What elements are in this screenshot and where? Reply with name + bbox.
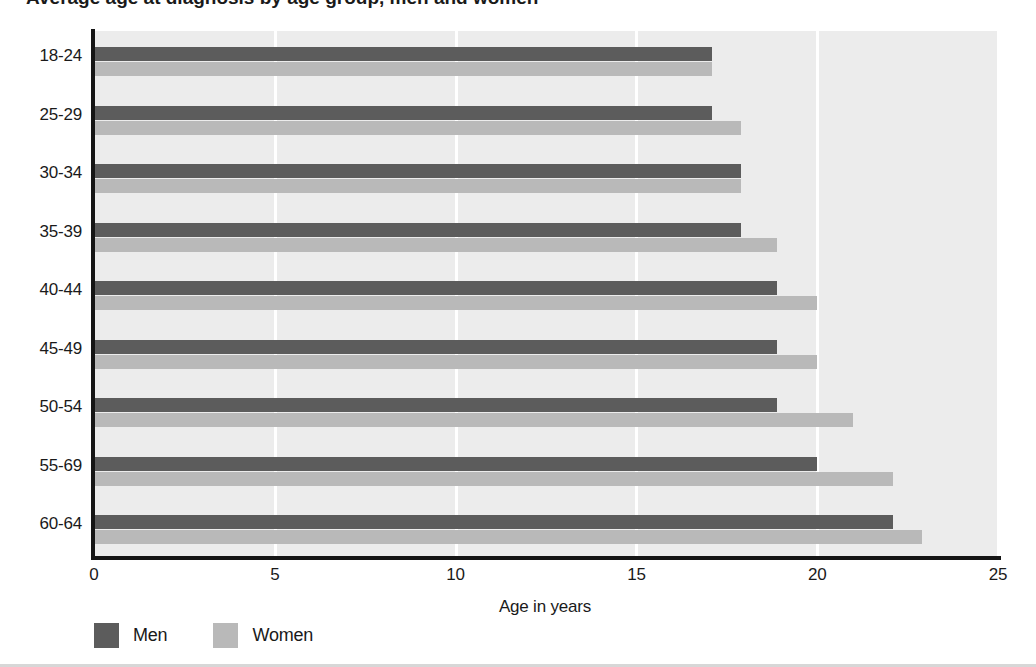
x-axis-title: Age in years <box>445 597 645 617</box>
bar-group-35-39 <box>94 207 998 266</box>
bar-men-50-54 <box>94 398 777 412</box>
bar-women-40-44 <box>94 296 817 310</box>
bar-men-45-49 <box>94 340 777 354</box>
bar-women-30-34 <box>94 179 741 193</box>
y-tick-label-45-49: 45-49 <box>0 340 82 358</box>
y-tick-label-60-64: 60-64 <box>0 515 82 533</box>
legend-item-women[interactable]: Women <box>213 623 313 648</box>
y-tick-label-30-34: 30-34 <box>0 164 82 182</box>
bar-women-45-49 <box>94 355 817 369</box>
bar-chart: Average age at diagnosis by age group, m… <box>0 0 1036 667</box>
chart-legend: MenWomen <box>94 620 359 650</box>
chart-title-clipped: Average age at diagnosis by age group, m… <box>0 0 1036 9</box>
bar-group-50-54 <box>94 382 998 441</box>
bar-group-30-34 <box>94 148 998 207</box>
x-tick-label-5: 5 <box>245 565 305 585</box>
bar-women-35-39 <box>94 238 777 252</box>
bar-group-45-49 <box>94 324 998 383</box>
bar-men-30-34 <box>94 164 741 178</box>
legend-label-women: Women <box>252 625 313 646</box>
y-tick-label-25-29: 25-29 <box>0 106 82 124</box>
x-tick-label-15: 15 <box>606 565 666 585</box>
legend-swatch-women <box>213 623 238 648</box>
bar-group-18-24 <box>94 31 998 90</box>
bar-women-55-69 <box>94 472 893 486</box>
bar-women-60-64 <box>94 530 922 544</box>
chart-title-text: Average age at diagnosis by age group, m… <box>0 0 1036 9</box>
y-tick-label-35-39: 35-39 <box>0 223 82 241</box>
bar-men-18-24 <box>94 47 712 61</box>
x-tick-label-25: 25 <box>968 565 1028 585</box>
y-tick-label-18-24: 18-24 <box>0 47 82 65</box>
legend-item-men[interactable]: Men <box>94 623 167 648</box>
x-tick-label-10: 10 <box>426 565 486 585</box>
bar-women-50-54 <box>94 413 853 427</box>
bar-men-25-29 <box>94 106 712 120</box>
legend-swatch-men <box>94 623 119 648</box>
bar-women-25-29 <box>94 121 741 135</box>
bar-men-35-39 <box>94 223 741 237</box>
bar-men-55-69 <box>94 457 817 471</box>
y-tick-label-50-54: 50-54 <box>0 398 82 416</box>
legend-label-men: Men <box>133 625 167 646</box>
bar-women-18-24 <box>94 62 712 76</box>
x-tick-label-0: 0 <box>64 565 124 585</box>
y-tick-label-55-69: 55-69 <box>0 457 82 475</box>
bar-group-60-64 <box>94 499 998 558</box>
bar-group-25-29 <box>94 90 998 149</box>
y-axis-line <box>91 29 95 560</box>
bar-men-60-64 <box>94 515 893 529</box>
y-tick-label-40-44: 40-44 <box>0 281 82 299</box>
bar-group-55-69 <box>94 441 998 500</box>
plot-area <box>94 31 998 558</box>
x-tick-label-20: 20 <box>787 565 847 585</box>
bar-men-40-44 <box>94 281 777 295</box>
bar-group-40-44 <box>94 265 998 324</box>
x-axis-line <box>91 556 1001 560</box>
